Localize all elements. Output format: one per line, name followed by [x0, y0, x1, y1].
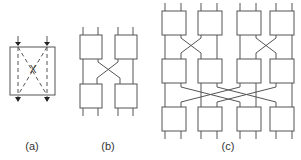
arrow-down-icon	[15, 42, 21, 46]
switch-box	[162, 11, 186, 35]
switch-box	[237, 11, 261, 35]
caption-a: (a)	[25, 140, 38, 152]
switch-box	[198, 11, 222, 35]
switch-box	[162, 59, 186, 83]
arrow-down-icon	[15, 97, 21, 102]
switch-box	[162, 107, 186, 131]
caption-c: (c)	[222, 140, 235, 152]
switch-box	[80, 84, 102, 108]
crossover-mark: X	[30, 64, 37, 75]
switch-box	[237, 107, 261, 131]
panel-b-diagram	[80, 27, 137, 116]
arrow-down-icon	[44, 97, 50, 102]
switch-box	[115, 35, 137, 59]
cross-wire	[97, 59, 118, 84]
switch-box	[270, 59, 294, 83]
caption-b: (b)	[101, 140, 114, 152]
diagram-canvas	[0, 0, 301, 160]
panel-c-diagram	[162, 3, 294, 139]
switch-box	[270, 107, 294, 131]
switch-box	[237, 59, 261, 83]
switch-box	[198, 59, 222, 83]
arrow-down-icon	[44, 42, 50, 46]
switch-box	[80, 35, 102, 59]
switch-box	[270, 11, 294, 35]
switch-box	[115, 84, 137, 108]
switch-box	[198, 107, 222, 131]
